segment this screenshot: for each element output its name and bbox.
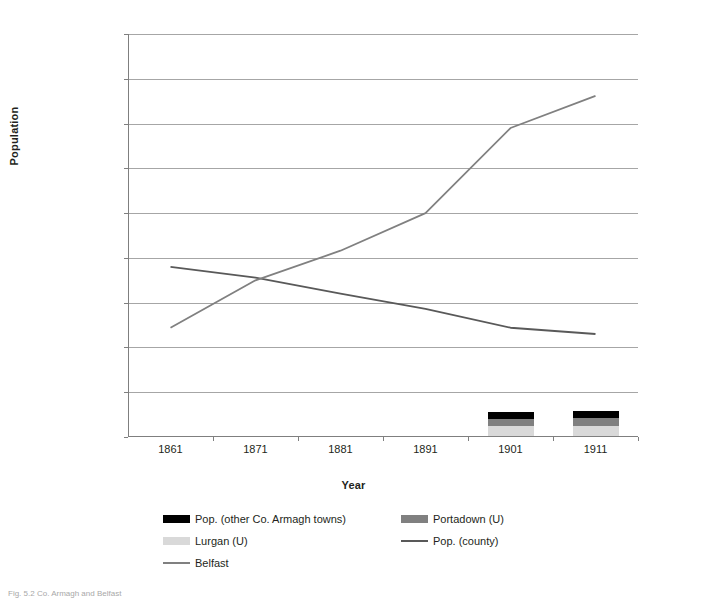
x-tick-label: 1871 [216,443,296,455]
plot-area: 050,000100,000150,000200,000250,000300,0… [128,34,638,437]
x-tick-mark [553,437,554,441]
legend-item[interactable]: Pop. (other Co. Armagh towns) [163,514,401,525]
x-tick-label: 1901 [471,443,551,455]
legend-label: Belfast [195,558,229,569]
legend-color-swatch [163,537,190,545]
x-tick-mark [468,437,469,441]
x-tick-label: 1891 [386,443,466,455]
legend-item[interactable]: Lurgan (U) [163,536,401,547]
legend-line-swatch [401,540,428,542]
x-tick-label: 1911 [556,443,636,455]
population-line-chart: Population 050,000100,000150,000200,0002… [0,0,707,600]
legend-label: Lurgan (U) [195,536,248,547]
x-axis-title: Year [0,479,707,491]
legend-line-swatch [163,562,190,564]
legend-item[interactable]: Portadown (U) [401,514,583,525]
line-series-layer [128,34,638,437]
legend-label: Pop. (county) [433,536,498,547]
legend-label: Portadown (U) [433,514,504,525]
line-series [171,96,596,328]
x-tick-mark [383,437,384,441]
legend-color-swatch [163,515,190,523]
line-series [171,267,596,334]
figure-caption: Fig. 5.2 Co. Armagh and Belfast [8,588,328,600]
legend-item[interactable]: Pop. (county) [401,536,583,547]
legend-item[interactable]: Belfast [163,558,401,569]
x-tick-mark [213,437,214,441]
x-tick-mark [298,437,299,441]
chart-legend: Pop. (other Co. Armagh towns)Portadown (… [163,508,583,574]
y-tick-mark [124,437,128,438]
y-axis-title: Population [8,76,20,196]
x-tick-mark [638,437,639,441]
legend-label: Pop. (other Co. Armagh towns) [195,514,346,525]
x-tick-label: 1881 [301,443,381,455]
legend-color-swatch [401,515,428,523]
x-tick-label: 1861 [131,443,211,455]
